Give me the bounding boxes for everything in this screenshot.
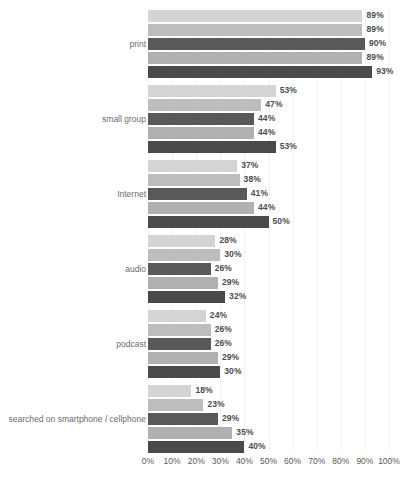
bar-row: 29% (148, 352, 389, 364)
x-tick-label: 20% (188, 455, 205, 467)
bar-row: 23% (148, 399, 389, 411)
category-label: searched on smartphone / cellphone (0, 414, 146, 424)
bar-row: 30% (148, 249, 389, 261)
bar-group: 89%89%90%89%93% (148, 10, 389, 78)
bar (148, 160, 237, 172)
bar-value-label: 38% (244, 173, 261, 185)
bar-row: 26% (148, 263, 389, 275)
bar (148, 249, 220, 261)
bar (148, 366, 220, 378)
bar-row: 93% (148, 66, 389, 78)
bar-chart: 89%89%90%89%93%53%47%44%44%53%37%38%41%4… (0, 0, 410, 477)
bar-value-label: 44% (258, 112, 275, 124)
bar-value-label: 90% (369, 37, 386, 49)
bar (148, 216, 269, 228)
bar-value-label: 26% (215, 262, 232, 274)
bar (148, 202, 254, 214)
bar-row: 40% (148, 441, 389, 453)
category-label: Internet (0, 189, 146, 199)
bar-value-label: 40% (248, 440, 265, 452)
x-tick-label: 50% (260, 455, 277, 467)
bar-row: 44% (148, 113, 389, 125)
bar-row: 37% (148, 160, 389, 172)
bar-row: 89% (148, 10, 389, 22)
x-tick-label: 0% (142, 455, 154, 467)
bar-row: 26% (148, 338, 389, 350)
bar (148, 52, 362, 64)
bar-row: 30% (148, 366, 389, 378)
bar (148, 291, 225, 303)
bar-row: 90% (148, 38, 389, 50)
bar-row: 53% (148, 85, 389, 97)
bar-value-label: 44% (258, 201, 275, 213)
bar-value-label: 89% (366, 23, 383, 35)
x-tick-label: 40% (236, 455, 253, 467)
bar (148, 441, 244, 453)
category-label: podcast (0, 339, 146, 349)
bar-group: 28%30%26%29%32% (148, 235, 389, 303)
bar-row: 44% (148, 127, 389, 139)
bar-row: 89% (148, 24, 389, 36)
bar (148, 413, 218, 425)
bar-value-label: 32% (229, 290, 246, 302)
bar (148, 352, 218, 364)
bar-row: 35% (148, 427, 389, 439)
bar-value-label: 23% (207, 398, 224, 410)
bar-value-label: 47% (265, 98, 282, 110)
bar-value-label: 53% (280, 84, 297, 96)
bar-value-label: 28% (219, 234, 236, 246)
bar-row: 41% (148, 188, 389, 200)
bar-row: 18% (148, 385, 389, 397)
bar-row: 32% (148, 291, 389, 303)
bar-value-label: 18% (195, 384, 212, 396)
bar (148, 174, 240, 186)
bar-row: 50% (148, 216, 389, 228)
bar (148, 385, 191, 397)
bar-value-label: 37% (241, 159, 258, 171)
bar-row: 44% (148, 202, 389, 214)
bar-value-label: 30% (224, 248, 241, 260)
bar (148, 127, 254, 139)
bar (148, 85, 276, 97)
bar-row: 29% (148, 413, 389, 425)
bar (148, 10, 362, 22)
x-axis: 0%10%20%30%40%50%60%70%80%90%100% (148, 455, 389, 471)
x-tick-label: 10% (164, 455, 181, 467)
bar-value-label: 89% (366, 9, 383, 21)
bar-value-label: 44% (258, 126, 275, 138)
x-tick-label: 70% (308, 455, 325, 467)
bar (148, 141, 276, 153)
bar-row: 89% (148, 52, 389, 64)
bar-row: 26% (148, 324, 389, 336)
category-label: small group (0, 114, 146, 124)
bar (148, 427, 232, 439)
x-tick-label: 30% (212, 455, 229, 467)
bar (148, 66, 372, 78)
bar-group: 53%47%44%44%53% (148, 85, 389, 153)
bar-value-label: 29% (222, 276, 239, 288)
bar-value-label: 89% (366, 51, 383, 63)
bar-value-label: 29% (222, 412, 239, 424)
category-label: print (0, 39, 146, 49)
bar-value-label: 26% (215, 337, 232, 349)
bar (148, 310, 206, 322)
bar-row: 53% (148, 141, 389, 153)
bar-row: 38% (148, 174, 389, 186)
bar-row: 29% (148, 277, 389, 289)
x-tick-label: 60% (284, 455, 301, 467)
bar-value-label: 24% (210, 309, 227, 321)
bar-group: 18%23%29%35%40% (148, 385, 389, 453)
bar-row: 47% (148, 99, 389, 111)
bar (148, 99, 261, 111)
bar (148, 24, 362, 36)
bar-value-label: 26% (215, 323, 232, 335)
bar-group: 24%26%26%29%30% (148, 310, 389, 378)
bar (148, 235, 215, 247)
bar-value-label: 35% (236, 426, 253, 438)
bar (148, 188, 247, 200)
bar (148, 277, 218, 289)
bar-value-label: 93% (376, 65, 393, 77)
x-tick-label: 80% (332, 455, 349, 467)
bar-row: 28% (148, 235, 389, 247)
bar-group: 37%38%41%44%50% (148, 160, 389, 228)
